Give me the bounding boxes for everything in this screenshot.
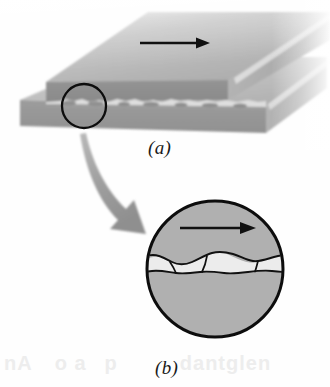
bleed-seg-3: p <box>105 352 118 374</box>
bleed-seg-1: nA <box>4 352 33 374</box>
scan-fade-top <box>0 0 330 70</box>
figure-root: nAo apdantglen (a) (b) <box>0 0 330 387</box>
bleed-seg-2: o a <box>55 352 87 374</box>
magnification-callout-arrow <box>80 133 146 234</box>
figure-illustration <box>0 0 330 387</box>
panel-a-caption: (a) <box>148 137 171 159</box>
panel-b-caption: (b) <box>155 357 178 379</box>
panel-b-magnified-view <box>140 195 295 348</box>
bleed-seg-4: dantglen <box>180 352 271 374</box>
callout-arrow-body <box>80 133 146 234</box>
